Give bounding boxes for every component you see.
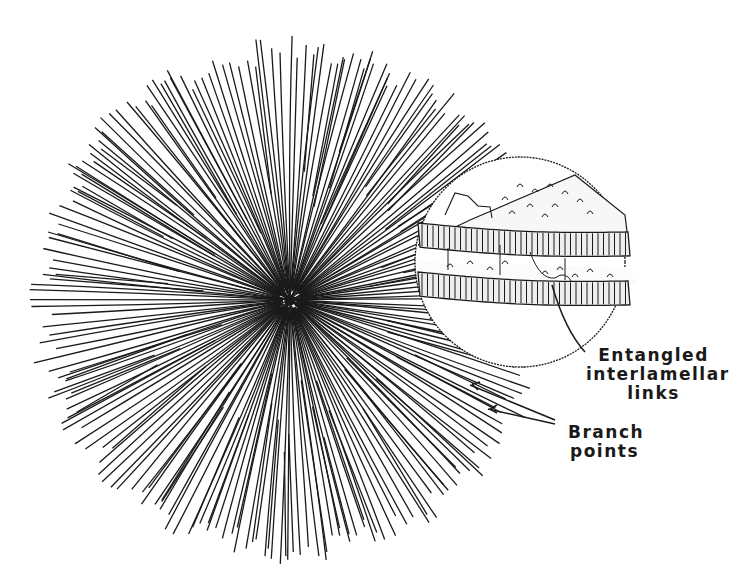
label-line: Branch bbox=[568, 423, 644, 442]
lamella-ray bbox=[116, 110, 281, 291]
label-line: interlamellar bbox=[586, 365, 721, 384]
lamella-ray bbox=[165, 309, 285, 530]
branch-ray bbox=[101, 149, 177, 205]
lamella-ray bbox=[293, 53, 354, 288]
lamella-ray bbox=[59, 224, 280, 297]
branch-ray bbox=[284, 452, 285, 556]
lamella-ray bbox=[109, 114, 282, 292]
label-line: points bbox=[570, 442, 644, 461]
label-line: Entangled bbox=[586, 346, 721, 365]
branch-ray bbox=[313, 64, 338, 197]
branch-ray bbox=[301, 380, 327, 551]
branch-ray bbox=[253, 403, 272, 542]
label-entangled-interlamellar-links: Entangled interlamellar links bbox=[586, 346, 721, 403]
branch-ray bbox=[149, 364, 241, 488]
label-branch-points: Branch points bbox=[568, 423, 644, 461]
lamella-ray bbox=[103, 307, 282, 448]
branch-ray bbox=[162, 392, 230, 500]
lamella-ray bbox=[294, 308, 396, 536]
label-line: links bbox=[586, 384, 721, 403]
lamella-ray bbox=[73, 173, 280, 294]
branch-ray bbox=[208, 415, 248, 523]
branch-ray bbox=[289, 434, 294, 552]
branch-ray bbox=[102, 132, 194, 215]
inset-background bbox=[415, 157, 625, 367]
nucleus bbox=[285, 295, 295, 305]
